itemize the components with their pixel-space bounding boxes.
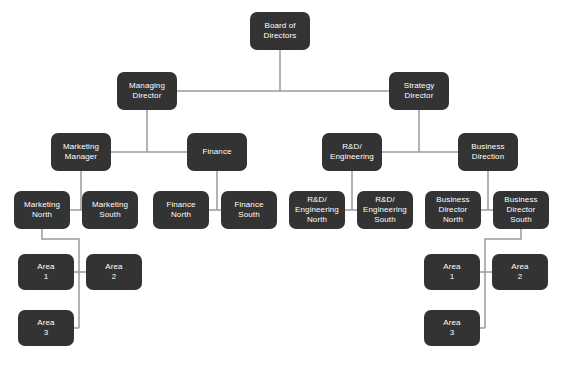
node-marketing-area-3[interactable]: Area 3 <box>18 310 74 346</box>
node-label: Finance <box>202 147 231 157</box>
node-finance-south[interactable]: Finance South <box>221 191 277 229</box>
node-managing-director[interactable]: Managing Director <box>117 72 177 110</box>
node-label: Marketing South <box>92 200 128 220</box>
node-label: Area 2 <box>105 262 122 282</box>
node-label: Managing Director <box>129 81 165 101</box>
node-label: R&D/ Engineering South <box>363 195 407 225</box>
node-business-area-3[interactable]: Area 3 <box>424 310 480 346</box>
node-label: Marketing Manager <box>63 142 99 162</box>
node-marketing-north[interactable]: Marketing North <box>14 191 70 229</box>
node-label: Area 3 <box>443 318 460 338</box>
node-rd-engineering-north[interactable]: R&D/ Engineering North <box>289 191 345 229</box>
node-label: R&D/ Engineering <box>330 142 374 162</box>
node-label: Business Director South <box>504 195 537 225</box>
node-marketing-south[interactable]: Marketing South <box>82 191 138 229</box>
node-board-of-directors[interactable]: Board of Directors <box>250 12 310 50</box>
node-marketing-manager[interactable]: Marketing Manager <box>51 133 111 171</box>
node-label: R&D/ Engineering North <box>295 195 339 225</box>
node-label: Marketing North <box>24 200 60 220</box>
node-label: Area 1 <box>443 262 460 282</box>
org-chart-canvas: Board of DirectorsManaging DirectorStrat… <box>0 0 562 371</box>
node-label: Area 2 <box>511 262 528 282</box>
node-marketing-area-1[interactable]: Area 1 <box>18 254 74 290</box>
node-label: Area 1 <box>37 262 54 282</box>
node-label: Area 3 <box>37 318 54 338</box>
node-business-area-1[interactable]: Area 1 <box>424 254 480 290</box>
node-finance[interactable]: Finance <box>187 133 247 171</box>
node-rd-engineering[interactable]: R&D/ Engineering <box>322 133 382 171</box>
node-label: Business Director North <box>436 195 469 225</box>
node-rd-engineering-south[interactable]: R&D/ Engineering South <box>357 191 413 229</box>
node-label: Strategy Director <box>404 81 435 101</box>
node-business-director-north[interactable]: Business Director North <box>425 191 481 229</box>
node-marketing-area-2[interactable]: Area 2 <box>86 254 142 290</box>
node-business-direction[interactable]: Business Direction <box>458 133 518 171</box>
node-label: Finance South <box>234 200 263 220</box>
node-strategy-director[interactable]: Strategy Director <box>389 72 449 110</box>
node-finance-north[interactable]: Finance North <box>153 191 209 229</box>
node-business-director-south[interactable]: Business Director South <box>493 191 549 229</box>
node-business-area-2[interactable]: Area 2 <box>492 254 548 290</box>
node-label: Finance North <box>166 200 195 220</box>
node-label: Business Direction <box>471 142 504 162</box>
node-label: Board of Directors <box>264 21 297 41</box>
